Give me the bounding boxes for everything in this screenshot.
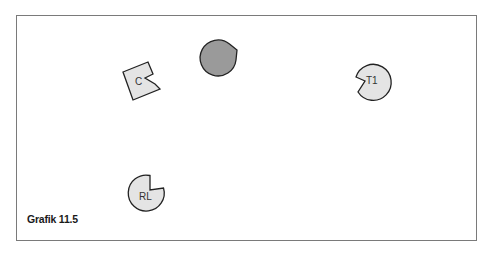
square-c-shape: C <box>123 62 160 100</box>
figure-caption: Grafik 11.5 <box>27 213 78 225</box>
rl-label: RL <box>139 191 152 202</box>
rl-pacman-shape: RL <box>128 175 164 211</box>
t1-label: T1 <box>366 75 378 86</box>
t1-pacman-shape: T1 <box>356 64 391 100</box>
square-c-label: C <box>135 76 142 87</box>
dark-pacman-shape <box>200 40 237 76</box>
